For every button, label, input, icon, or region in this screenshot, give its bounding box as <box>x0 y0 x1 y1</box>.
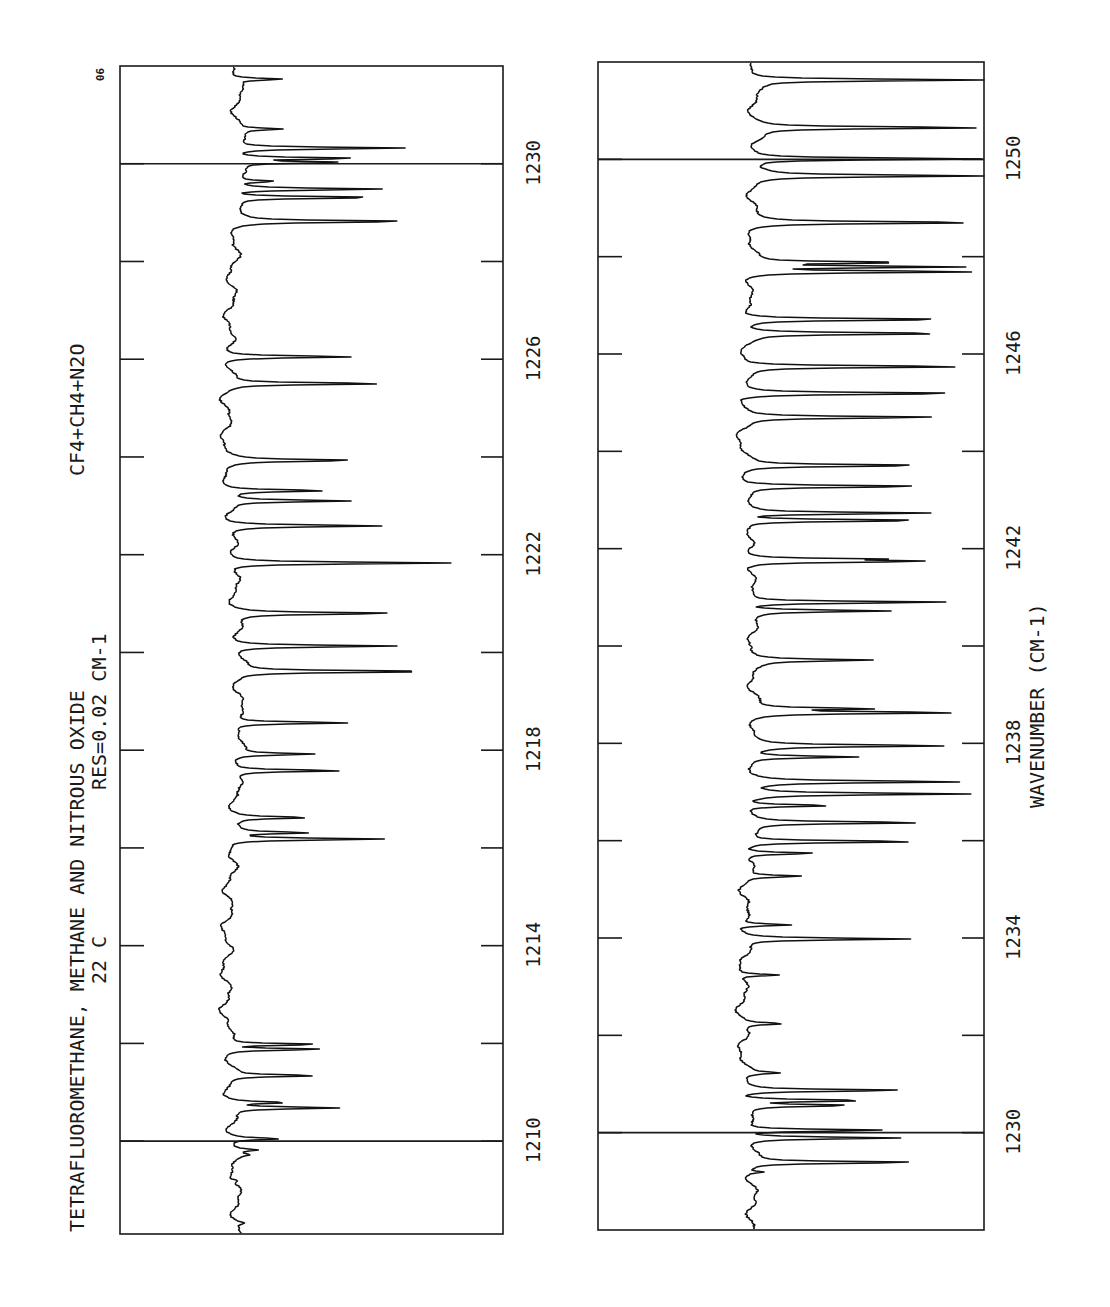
lower-spectrum-trace <box>735 63 984 1229</box>
upper-tick-labels: 121012141218122212261230 <box>522 140 544 1163</box>
tick-label: 1230 <box>1002 1109 1024 1155</box>
tick-label: 1222 <box>522 531 544 577</box>
lower-marker-lines <box>598 159 984 1132</box>
tick-label: 1246 <box>1002 330 1024 376</box>
lower-tick-labels: 123012341238124212461250 <box>1002 136 1024 1155</box>
tick-label: 1230 <box>522 140 544 186</box>
page-number-label: 90 <box>93 68 106 81</box>
upper-marker-lines <box>120 164 503 1141</box>
temperature-label: 22 C <box>87 936 111 984</box>
upper-axis-ticks <box>120 164 503 1141</box>
tick-label: 1226 <box>522 335 544 381</box>
upper-panel-frame <box>120 66 503 1234</box>
chart-title: TETRAFLUOROMETHANE, METHANE AND NITROUS … <box>65 690 89 1232</box>
lower-axis-ticks <box>598 159 984 1132</box>
tick-label: 1242 <box>1002 525 1024 571</box>
resolution-label: RES=0.02 CM-1 <box>87 633 111 790</box>
spectrum-figure: 90 TETRAFLUOROMETHANE, METHANE AND NITRO… <box>0 0 1110 1307</box>
x-axis-title: WAVENUMBER (CM-1) <box>1025 603 1049 808</box>
tick-label: 1214 <box>522 922 544 968</box>
tick-label: 1210 <box>522 1117 544 1163</box>
sample-label: CF4+CH4+N2O <box>65 344 89 476</box>
lower-panel-frame <box>598 62 984 1230</box>
tick-label: 1250 <box>1002 136 1024 182</box>
tick-label: 1234 <box>1002 914 1024 960</box>
tick-label: 1218 <box>522 726 544 772</box>
lower-spectrum-panel: 123012341238124212461250 <box>598 62 1024 1230</box>
upper-spectrum-trace <box>219 67 451 1233</box>
tick-label: 1238 <box>1002 720 1024 766</box>
upper-spectrum-panel: 121012141218122212261230 <box>120 66 544 1234</box>
